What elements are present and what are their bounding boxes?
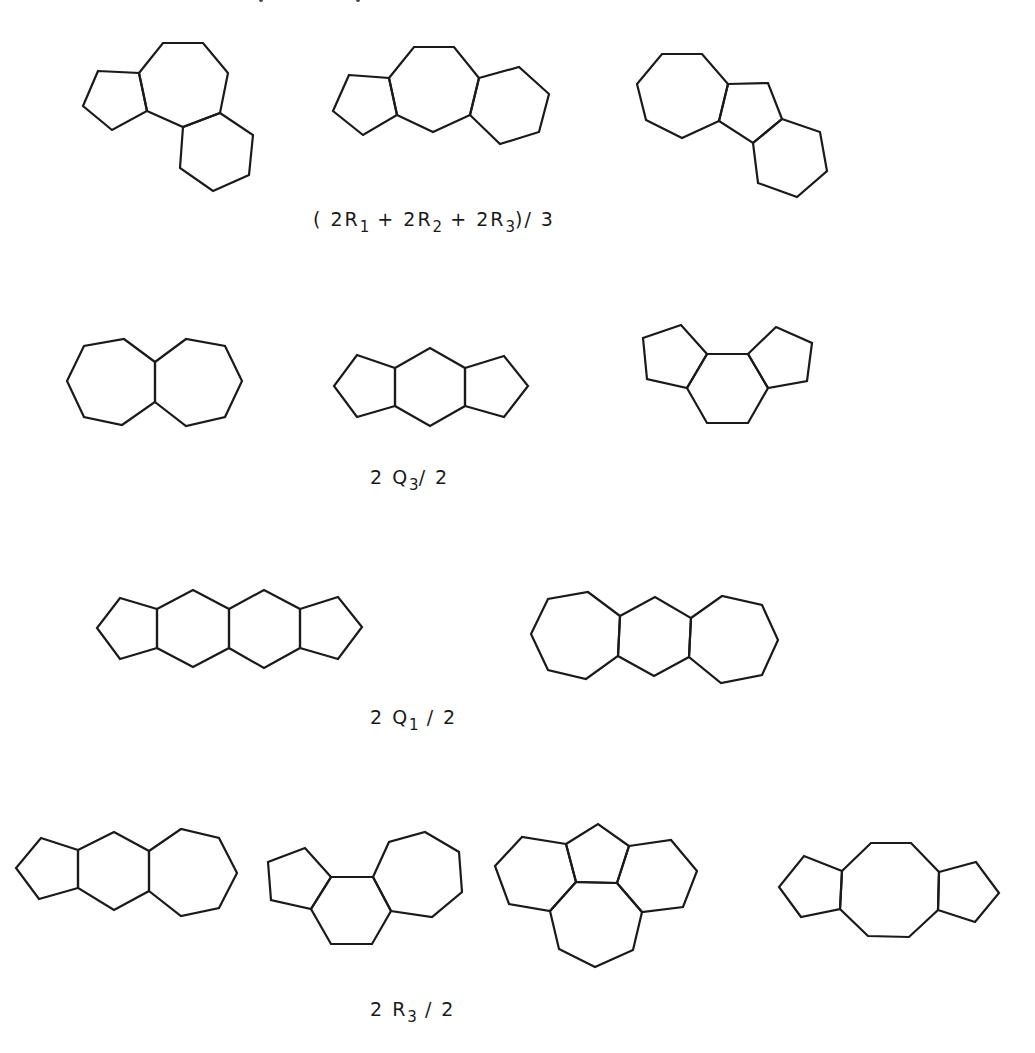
heptagon-ring: [67, 339, 155, 425]
hexagon-ring: [618, 597, 691, 676]
chemical-structures-figure: [0, 0, 1035, 1053]
caption-subscript: 3: [409, 476, 419, 494]
pentagon-ring: [97, 598, 157, 659]
molecule-pentagon-hexagon-pentagon-angular: [643, 325, 812, 423]
caption-row-1: ( 2R1 + 2R2 + 2R3)/ 3: [313, 208, 555, 236]
pentagon-ring: [268, 848, 331, 909]
structure-row-3: [97, 590, 778, 683]
caption-text: 2 Q: [370, 466, 409, 488]
structure-row-1: [83, 43, 827, 197]
hexagon-ring: [157, 590, 229, 667]
hexagon-ring: [229, 590, 300, 668]
caption-text: / 2: [419, 706, 458, 728]
pentagon-ring: [300, 597, 362, 659]
molecule-pentagon-heptagon-hexagon-linear: [333, 47, 549, 144]
caption-subscript: 1: [360, 218, 370, 236]
caption-subscript: 1: [409, 716, 419, 734]
heptagon-ring: [550, 882, 642, 967]
octagon-ring: [840, 843, 939, 937]
hexagon-ring: [687, 354, 768, 423]
pentagon-ring: [83, 71, 147, 130]
caption-row-2: 2 Q3/ 2: [370, 466, 449, 494]
molecule-pentagon-hexagon-pentagon-linear: [334, 348, 528, 426]
molecule-pentagon-hexagon-heptagon-angular: [268, 832, 462, 944]
caption-text: ( 2R: [313, 208, 360, 230]
pentagon-ring: [643, 325, 707, 388]
heptagon-ring: [155, 339, 242, 426]
caption-text: / 2: [417, 998, 456, 1020]
hexagon-ring: [470, 67, 549, 144]
hexagon-ring: [395, 348, 465, 426]
caption-row-4: 2 R3 / 2: [370, 998, 455, 1026]
hexagon-ring: [495, 837, 576, 911]
heptagon-ring: [637, 54, 728, 138]
caption-subscript: 3: [505, 218, 515, 236]
molecule-heptagon-hexagon-heptagon: [531, 592, 778, 683]
caption-text: + 2R: [369, 208, 432, 230]
molecule-pentagon-two-hexagons-heptagon-fused: [495, 824, 697, 967]
molecule-heptagon-heptagon: [67, 339, 242, 426]
pentagon-ring: [748, 327, 812, 388]
caption-text: 2 R: [370, 998, 407, 1020]
molecule-pentagon-heptagon-hexagon-angular: [83, 43, 253, 191]
pentagon-ring: [333, 75, 397, 135]
hexagon-ring: [617, 840, 697, 912]
pentagon-ring: [719, 83, 782, 143]
heptagon-ring: [689, 596, 778, 683]
molecule-pentagon-hexagon-hexagon-pentagon: [97, 590, 362, 668]
molecule-heptagon-pentagon-hexagon: [637, 54, 827, 197]
structure-row-2: [67, 325, 812, 426]
caption-row-3: 2 Q1 / 2: [370, 706, 457, 734]
hexagon-ring: [180, 113, 253, 191]
heptagon-ring: [531, 592, 620, 679]
pentagon-ring: [334, 355, 395, 417]
molecule-pentagon-hexagon-heptagon-linear: [16, 829, 237, 916]
caption-subscript: 3: [407, 1008, 417, 1026]
caption-subscript: 2: [433, 218, 443, 236]
hexagon-ring: [753, 119, 827, 197]
molecule-pentagon-octagon-pentagon: [779, 843, 999, 937]
caption-text: / 2: [419, 466, 450, 488]
pentagon-ring: [465, 356, 528, 417]
pentagon-ring: [16, 838, 78, 899]
caption-text: + 2R: [442, 208, 505, 230]
hexagon-ring: [78, 832, 149, 910]
caption-text: 2 Q: [370, 706, 409, 728]
heptagon-ring: [373, 832, 462, 917]
heptagon-ring: [149, 829, 237, 916]
pentagon-ring: [938, 862, 999, 922]
heptagon-ring: [389, 47, 479, 132]
pentagon-ring: [779, 856, 842, 917]
caption-text: )/ 3: [515, 208, 555, 230]
structure-row-4: [16, 824, 999, 967]
